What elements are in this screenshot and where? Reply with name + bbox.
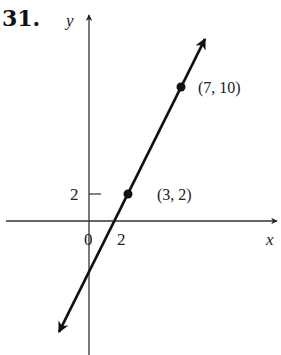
y-tick-label: 2 (70, 185, 79, 204)
origin-label: 0 (84, 230, 93, 249)
x-tick-label: 2 (117, 230, 126, 249)
x-axis-label: x (265, 230, 274, 249)
y-axis-label: y (64, 11, 74, 30)
line-graph: 31. y x 2 0 2 (3, 2) (7, 10) (0, 0, 281, 355)
point-label-7-10: (7, 10) (198, 79, 241, 97)
point-label-3-2: (3, 2) (157, 186, 192, 204)
problem-number: 31. (2, 5, 40, 31)
point-7-10 (177, 83, 186, 92)
point-3-2 (124, 190, 133, 199)
